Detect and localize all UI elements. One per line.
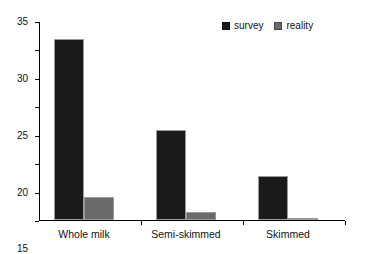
y-tick-label: 15 — [17, 244, 28, 254]
bar-survey-0 — [54, 39, 84, 220]
x-axis-category-labels: Whole milkSemi-skimmedSkimmed — [39, 228, 345, 244]
bar-chart: survey reality 05101520253035 Whole milk… — [0, 0, 365, 254]
x-axis-line — [39, 220, 345, 221]
x-tick — [345, 221, 346, 225]
y-tick: 0 — [35, 221, 39, 222]
bar-reality-2 — [288, 218, 318, 220]
y-tick-label: 35 — [17, 17, 28, 27]
category-label-1: Semi-skimmed — [151, 228, 220, 240]
plot-area: 05101520253035 — [39, 22, 345, 221]
category-label-0: Whole milk — [58, 228, 109, 240]
category-label-2: Skimmed — [266, 228, 310, 240]
bar-reality-0 — [84, 197, 114, 220]
bar-survey-1 — [156, 130, 186, 221]
x-tick — [243, 221, 244, 225]
y-tick-label: 25 — [17, 131, 28, 141]
bar-reality-1 — [186, 212, 216, 220]
x-tick — [141, 221, 142, 225]
bar-survey-2 — [258, 176, 288, 220]
y-tick-label: 20 — [17, 188, 28, 198]
bars-layer — [39, 22, 345, 220]
y-tick-label: 30 — [17, 74, 28, 84]
